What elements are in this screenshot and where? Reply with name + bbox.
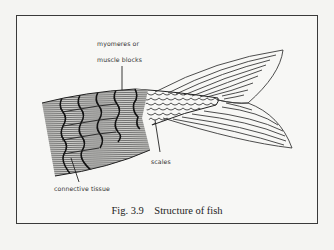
label-scales: scales xyxy=(151,158,171,165)
tail-fin-lower-lobe xyxy=(163,100,292,148)
figure-caption: Fig. 3.9 Structure of fish xyxy=(0,205,334,216)
label-connective-tissue: connective tissue xyxy=(54,185,110,192)
label-muscle-blocks: muscle blocks xyxy=(97,56,142,63)
label-myomeres: myomeres or xyxy=(97,40,139,47)
scales-leader-line xyxy=(155,120,160,152)
